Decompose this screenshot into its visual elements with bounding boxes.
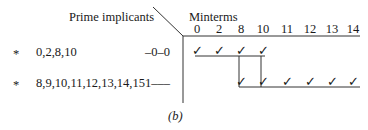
prime-implicant-pattern: 1––– — [145, 77, 170, 90]
check-mark-icon: ✓ — [282, 74, 293, 90]
minterm-column-header: 14 — [347, 22, 360, 37]
check-mark-icon: ✓ — [214, 43, 225, 59]
prime-implicant-minterms: 8,9,10,11,12,13,14,15 — [36, 77, 145, 90]
check-mark-icon: ✓ — [305, 74, 316, 90]
minterm-column-header: 11 — [281, 22, 293, 37]
check-mark-icon: ✓ — [192, 43, 203, 59]
minterm-column-header: 12 — [304, 22, 317, 37]
essential-marker: * — [13, 48, 19, 61]
prime-implicant-pattern: –0–0 — [145, 46, 170, 59]
check-mark-icon: ✓ — [258, 74, 269, 90]
header-diagonal-divider — [153, 7, 183, 36]
chart-grid-lines — [0, 0, 368, 130]
prime-implicant-minterms: 0,2,8,10 — [36, 46, 77, 59]
check-mark-icon: ✓ — [258, 43, 269, 59]
check-mark-icon: ✓ — [348, 74, 359, 90]
minterm-column-header: 13 — [326, 22, 339, 37]
minterm-column-header: 8 — [238, 22, 244, 37]
check-mark-icon: ✓ — [327, 74, 338, 90]
check-mark-icon: ✓ — [236, 74, 247, 90]
essential-marker: * — [13, 79, 19, 92]
minterm-column-header: 0 — [194, 22, 200, 37]
minterm-column-header: 2 — [216, 22, 222, 37]
check-mark-icon: ✓ — [236, 43, 247, 59]
figure-caption: (b) — [168, 110, 183, 123]
minterm-column-header: 10 — [257, 22, 270, 37]
prime-implicants-header: Prime implicants — [69, 11, 154, 24]
